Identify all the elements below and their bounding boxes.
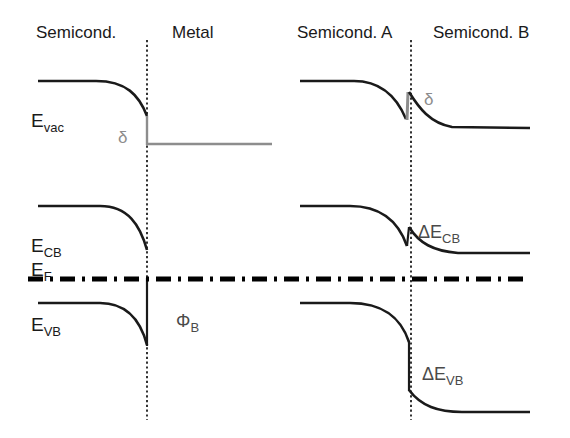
curve-evb-semicond-a-right bbox=[300, 303, 409, 342]
label-ecb: ECB bbox=[31, 235, 62, 260]
curve-evac-semicond-left bbox=[38, 81, 147, 116]
band-diagram-svg: Semicond. Metal Semicond. A Semicond. B … bbox=[0, 0, 570, 438]
curve-ecb-semicond-left bbox=[38, 206, 147, 250]
curve-evb-semicond-b-right bbox=[409, 390, 530, 412]
label-evb: EVB bbox=[31, 314, 61, 339]
curve-evac-semicond-a-right bbox=[300, 81, 406, 119]
curve-ecb-semicond-a-right bbox=[300, 206, 407, 246]
header-left-region-a: Semicond. bbox=[36, 23, 116, 42]
label-phi-b: ΦB bbox=[176, 311, 199, 335]
label-evac: Evac bbox=[31, 110, 64, 135]
band-diagram-figure: Semicond. Metal Semicond. A Semicond. B … bbox=[0, 0, 570, 438]
label-delta-left: δ bbox=[118, 128, 127, 147]
header-right-region-a: Semicond. A bbox=[297, 23, 393, 42]
label-delta-right: δ bbox=[424, 90, 433, 109]
header-left-region-b: Metal bbox=[172, 23, 214, 42]
label-delta-evb: ΔEVB bbox=[422, 364, 463, 388]
curve-delta-ecb-discontinuity bbox=[407, 227, 409, 246]
header-right-region-b: Semicond. B bbox=[433, 23, 529, 42]
curve-delta-gap-right bbox=[407, 92, 408, 120]
